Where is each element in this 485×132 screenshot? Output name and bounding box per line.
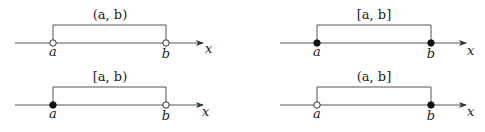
panel-half-open-left-interval: (a, b] a b x (280, 69, 475, 123)
point-a-label: a (313, 44, 321, 59)
interval-label: (a, b] (357, 69, 391, 84)
panel-half-open-right-interval: [a, b) a b x (15, 69, 210, 123)
interval-bracket (53, 25, 166, 40)
interval-label: [a, b) (93, 69, 127, 84)
axis-x-label: x (202, 104, 210, 119)
panel-closed-interval: [a, b] a b x (280, 7, 475, 61)
panel-open-interval: (a, b) a b x (15, 7, 213, 61)
interval-bracket (53, 87, 166, 102)
interval-label: [a, b] (357, 7, 391, 22)
axis-x-label: x (467, 104, 475, 119)
point-a-label: a (49, 44, 57, 59)
point-a-label: a (313, 106, 321, 121)
interval-bracket (317, 25, 431, 40)
axis-x-label: x (205, 41, 213, 56)
interval-diagram: (a, b) a b x [a, b] a b x [a, b) a b x (… (0, 0, 485, 132)
interval-label: (a, b) (93, 7, 127, 22)
point-b-label: b (427, 46, 435, 61)
interval-bracket (317, 87, 431, 102)
point-a-label: a (49, 106, 57, 121)
point-b-label: b (427, 108, 435, 123)
point-b-label: b (162, 46, 170, 61)
point-b-label: b (162, 108, 170, 123)
axis-x-label: x (467, 43, 475, 58)
